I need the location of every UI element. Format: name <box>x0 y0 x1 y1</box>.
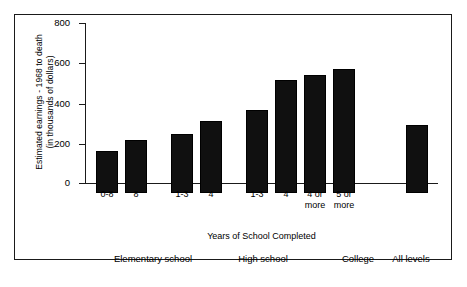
bar-5 <box>275 80 297 193</box>
y-axis-title: Estimated earnings - 1968 to death (in t… <box>34 12 56 192</box>
y-tick-label-400: 400 <box>54 98 70 109</box>
plot-area: 800 600 400 200 0 0-8 8 1-3 4 1-3 4 4 or… <box>85 23 438 193</box>
y-tick-600: 600 <box>79 63 85 64</box>
y-tick-label-0: 0 <box>65 177 70 188</box>
y-tick-400: 400 <box>79 104 85 105</box>
y-tick-label-800: 800 <box>54 17 70 28</box>
group-label-high-school: High school <box>213 253 313 264</box>
chart-figure-frame: Estimated earnings - 1968 to death (in t… <box>14 14 452 260</box>
group-label-all-levels: All levels <box>373 253 449 264</box>
y-tick-0: 0 <box>79 183 85 184</box>
bar-0 <box>96 151 118 193</box>
y-axis-line <box>85 23 86 184</box>
bar-1 <box>125 140 147 193</box>
x-tick-label-3: 4 <box>191 189 231 200</box>
y-tick-label-600: 600 <box>54 57 70 68</box>
y-tick-label-200: 200 <box>54 138 70 149</box>
x-axis-title: Years of School Completed <box>85 231 438 241</box>
bar-2 <box>171 134 193 193</box>
bar-8 <box>406 125 428 193</box>
bar-3 <box>200 121 222 193</box>
y-tick-800: 800 <box>79 23 85 24</box>
bar-6 <box>304 75 326 193</box>
group-label-elementary-school: Elementary school <box>93 253 213 264</box>
y-axis-title-line1: Estimated earnings - 1968 to death <box>34 34 44 170</box>
bar-4 <box>246 110 268 193</box>
y-tick-200: 200 <box>79 144 85 145</box>
x-tick-label-7: 5 or more <box>324 189 364 210</box>
x-tick-label-1: 8 <box>116 189 156 200</box>
bar-7 <box>333 69 355 193</box>
